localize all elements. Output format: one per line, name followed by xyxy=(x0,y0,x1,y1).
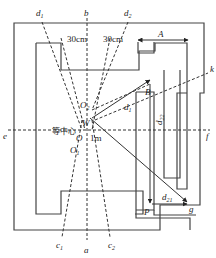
label-g: g xyxy=(189,204,194,214)
label-f: f xyxy=(206,131,210,141)
label-O: O xyxy=(76,133,83,143)
label-1m: 1m xyxy=(90,133,102,143)
label-30cm-right: 30cm xyxy=(103,34,123,44)
label-d1-mid: d1 xyxy=(124,102,132,113)
line-k xyxy=(95,73,208,120)
ray-to-g xyxy=(90,118,187,202)
maze-inner-column xyxy=(136,92,154,210)
label-c2: c2 xyxy=(108,240,115,251)
label-O1: O1 xyxy=(70,145,80,156)
label-O2: O2 xyxy=(80,100,90,111)
label-d21: d21 xyxy=(162,192,173,203)
label-e: e xyxy=(3,131,7,141)
label-d22: d22 xyxy=(154,115,165,126)
outer-wall xyxy=(14,23,204,230)
label-isocenter: 等中心 xyxy=(52,126,76,136)
label-d1-top: d1 xyxy=(36,8,44,19)
label-30cm-left: 30cm xyxy=(67,34,87,44)
shielding-room-diagram: d1 b d2 30cm 30cm A k B O2 等中心 W O 1m O1… xyxy=(0,0,216,258)
label-k: k xyxy=(210,64,215,74)
label-c1: c1 xyxy=(56,240,63,251)
label-b: b xyxy=(84,8,89,18)
label-A: A xyxy=(157,29,164,39)
label-B: B xyxy=(145,87,151,97)
label-a: a xyxy=(84,245,89,255)
ray-to-B xyxy=(92,80,150,118)
label-d2-top: d2 xyxy=(124,8,132,19)
label-W: W xyxy=(82,118,91,128)
label-P: P xyxy=(143,207,150,217)
